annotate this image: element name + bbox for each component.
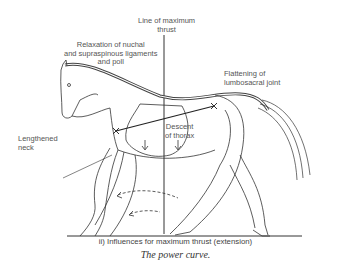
label-line-of-max-thrust: Line of maximum thrust	[138, 17, 195, 34]
tail	[262, 100, 310, 175]
label-flattening: Flattening of lumbosacral joint	[224, 70, 280, 87]
figure-subcaption: ii) Influences for maximum thrust (exten…	[0, 237, 351, 246]
horse-head	[61, 64, 98, 118]
hindquarters	[175, 95, 244, 235]
label-relaxation: Relaxation of nuchal and supraspinous li…	[64, 41, 157, 67]
label-descent: Descent of thorax	[165, 123, 194, 140]
label-lengthened-neck: Lengthened neck	[18, 135, 58, 152]
figure-caption: The power curve.	[0, 249, 351, 260]
